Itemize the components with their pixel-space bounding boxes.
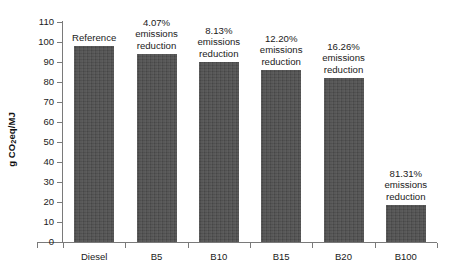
bar-annotation-line: emissions bbox=[125, 28, 187, 39]
bar-annotation-line: Reference bbox=[63, 32, 125, 43]
y-axis-tick-label: 50 bbox=[26, 137, 54, 147]
y-axis-tick-mark bbox=[57, 22, 62, 23]
bar-chart-figure: g CO2eq/MJ 1101009080706050403020100 Ref… bbox=[0, 0, 462, 279]
y-axis-tick-label-text: 80 bbox=[32, 77, 54, 87]
y-axis-tick-label-text: 20 bbox=[32, 197, 54, 207]
y-axis-tick-mark bbox=[57, 122, 62, 123]
bar-annotation-line: reduction bbox=[188, 48, 250, 59]
y-axis-tick-label: 110 bbox=[26, 17, 54, 27]
bar-annotation-line: 8.13% bbox=[188, 25, 250, 36]
x-axis-label-b5: B5 bbox=[125, 251, 187, 262]
x-axis-tick-mark bbox=[37, 243, 38, 248]
bar-b15 bbox=[261, 70, 301, 242]
bar-annotation-line: reduction bbox=[125, 40, 187, 51]
y-axis-tick-mark bbox=[57, 82, 62, 83]
x-axis-tick-mark bbox=[375, 243, 376, 248]
y-axis-tick-mark bbox=[57, 142, 62, 143]
x-axis-label-b20: B20 bbox=[312, 251, 374, 262]
x-axis-tick-mark bbox=[125, 243, 126, 248]
y-axis-tick-label: 0 bbox=[26, 237, 54, 247]
bar-annotation-line: emissions bbox=[375, 179, 437, 190]
y-axis-tick-label: 80 bbox=[26, 77, 54, 87]
y-axis-tick-label-text: 110 bbox=[32, 17, 54, 27]
bar-diesel bbox=[74, 46, 114, 242]
y-axis-tick-mark bbox=[57, 242, 62, 243]
y-axis-tick-label-text: 50 bbox=[32, 137, 54, 147]
y-axis-tick-label: 40 bbox=[26, 157, 54, 167]
bar-annotation-line: 4.07% bbox=[125, 17, 187, 28]
bar-b20 bbox=[324, 78, 364, 242]
bar-annotation-b10: 8.13%emissionsreduction bbox=[188, 25, 250, 59]
x-axis-tick-mark bbox=[188, 243, 189, 248]
bar-annotation-b100: 81.31%emissionsreduction bbox=[375, 168, 437, 202]
bar-annotation-b5: 4.07%emissionsreduction bbox=[125, 17, 187, 51]
bar-annotation-line: 12.20% bbox=[250, 33, 312, 44]
bar-annotation-line: emissions bbox=[250, 44, 312, 55]
y-axis-tick-label: 20 bbox=[26, 197, 54, 207]
y-axis-tick-mark bbox=[57, 42, 62, 43]
bar-b100 bbox=[386, 205, 426, 242]
y-axis-tick-mark bbox=[57, 102, 62, 103]
x-axis-label-b100: B100 bbox=[375, 251, 437, 262]
bar-annotation-line: reduction bbox=[312, 64, 374, 75]
y-axis-title: g CO2eq/MJ bbox=[0, 0, 22, 279]
bar-annotation-line: emissions bbox=[188, 36, 250, 47]
y-axis-tick-label-text: 100 bbox=[32, 37, 54, 47]
y-axis-tick-label-text: 60 bbox=[32, 117, 54, 127]
y-axis-title-prefix: g CO bbox=[6, 144, 17, 167]
bar-annotation-line: reduction bbox=[250, 56, 312, 67]
y-axis-tick-label: 30 bbox=[26, 177, 54, 187]
x-axis-tick-mark bbox=[312, 243, 313, 248]
x-axis-label-b10: B10 bbox=[188, 251, 250, 262]
y-axis-tick-label-text: 30 bbox=[32, 177, 54, 187]
x-axis-label-b15: B15 bbox=[250, 251, 312, 262]
y-axis-tick-label: 70 bbox=[26, 97, 54, 107]
y-axis-tick-label: 100 bbox=[26, 37, 54, 47]
x-axis-tick-mark bbox=[63, 243, 64, 248]
y-axis-title-suffix: eq/MJ bbox=[6, 112, 17, 139]
y-axis-tick-label: 90 bbox=[26, 57, 54, 67]
y-axis-tick-mark bbox=[57, 202, 62, 203]
bar-annotation-b20: 16.26%emissionsreduction bbox=[312, 41, 374, 75]
x-axis-tick-mark bbox=[437, 243, 438, 248]
bar-annotation-diesel: Reference bbox=[63, 32, 125, 43]
y-axis-tick-mark bbox=[57, 182, 62, 183]
x-axis-label-diesel: Diesel bbox=[63, 251, 125, 262]
bar-annotation-line: 81.31% bbox=[375, 168, 437, 179]
y-axis-tick-mark bbox=[57, 162, 62, 163]
y-axis-tick-label-text: 40 bbox=[32, 157, 54, 167]
y-axis-tick-label-text: 70 bbox=[32, 97, 54, 107]
bar-b10 bbox=[199, 62, 239, 242]
y-axis-tick-label-text: 0 bbox=[32, 237, 54, 247]
y-axis-tick-label-text: 10 bbox=[32, 217, 54, 227]
bar-annotation-b15: 12.20%emissionsreduction bbox=[250, 33, 312, 67]
y-axis-tick-label-text: 90 bbox=[32, 57, 54, 67]
bar-annotation-line: 16.26% bbox=[312, 41, 374, 52]
y-axis-tick-mark bbox=[57, 62, 62, 63]
x-axis-tick-mark bbox=[250, 243, 251, 248]
bar-annotation-line: reduction bbox=[375, 191, 437, 202]
bar-annotation-line: emissions bbox=[312, 52, 374, 63]
bar-b5 bbox=[137, 54, 177, 242]
y-axis-title-subscript: 2 bbox=[9, 140, 18, 144]
y-axis-tick-label: 10 bbox=[26, 217, 54, 227]
y-axis-tick-label: 60 bbox=[26, 117, 54, 127]
y-axis-tick-mark bbox=[57, 222, 62, 223]
x-axis-line bbox=[37, 242, 437, 243]
